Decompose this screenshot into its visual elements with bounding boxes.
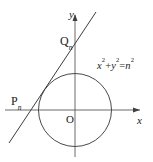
point-p-letter: P (11, 94, 18, 108)
tangent-line (9, 12, 96, 143)
point-q-letter: Q (60, 34, 69, 48)
label-circle-equation: x2+y2=n2 (97, 59, 134, 71)
label-point-q: Qn (60, 35, 72, 50)
equation-x-exponent: 2 (102, 56, 105, 63)
label-axis-x: x (137, 115, 142, 126)
math-figure: Pn Qn O x y x2+y2=n2 (0, 0, 153, 162)
point-p-subscript: n (18, 103, 22, 112)
equation-n-var: n (125, 60, 130, 71)
label-axis-y: y (69, 9, 74, 20)
equation-n-exponent: 2 (131, 56, 134, 63)
label-point-p: Pn (11, 95, 21, 110)
axis-x-letter: x (137, 114, 142, 126)
axis-y-letter: y (69, 8, 74, 20)
equation-y-exponent: 2 (116, 56, 119, 63)
label-origin: O (66, 114, 74, 125)
x-axis-arrow-icon (133, 107, 140, 112)
point-q-subscript: n (69, 43, 73, 52)
figure-canvas (0, 0, 153, 162)
